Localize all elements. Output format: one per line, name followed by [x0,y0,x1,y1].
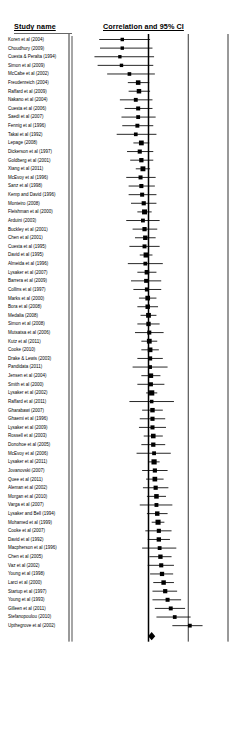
effect-size-marker [147,339,152,344]
effect-size-marker [151,459,156,464]
effect-size-marker [166,598,170,602]
forest-row [129,400,174,404]
effect-size-marker [145,296,150,301]
forest-row [120,98,153,102]
effect-size-marker [142,209,147,214]
forest-row [139,296,156,301]
effect-size-marker [144,279,148,283]
effect-size-marker [136,115,140,119]
forest-row [128,262,163,266]
effect-size-marker [145,287,149,291]
effect-size-marker [136,80,141,85]
forest-row [153,580,174,584]
effect-size-marker [139,158,143,162]
forest-row [140,252,153,257]
effect-size-marker [158,555,162,559]
effect-size-marker [137,89,141,93]
effect-size-marker [146,322,150,326]
forest-row [141,339,157,344]
forest-row [142,408,163,412]
forest-row [131,201,156,205]
forest-row [129,193,157,197]
effect-size-marker [157,537,161,541]
effect-size-marker [142,227,146,231]
forest-row [137,382,164,386]
effect-size-marker [150,400,154,404]
effect-size-marker [145,270,150,275]
effect-size-marker [149,390,154,395]
effect-size-marker [161,580,165,584]
effect-size-marker [148,347,153,352]
forest-row [142,546,176,550]
forest-row [126,175,155,179]
forest-row [143,486,168,490]
forest-row [94,55,154,58]
forest-row [137,209,151,214]
effect-size-marker [146,313,151,318]
effect-size-marker [143,262,147,266]
forest-row [141,373,160,378]
forest-row [128,80,149,85]
forest-row [133,287,161,291]
forest-row [152,589,177,593]
effect-size-marker [135,124,139,128]
forest-row [149,555,171,559]
forest-row [133,227,158,231]
effect-size-marker [153,468,157,472]
forest-row [129,89,150,93]
forest-row [137,322,159,326]
effect-size-marker [143,244,147,248]
forest-row [145,529,171,533]
effect-size-marker [153,477,158,482]
effect-size-marker [141,219,145,223]
effect-size-marker [144,252,149,257]
effect-size-marker [128,72,132,76]
effect-size-marker [136,106,140,110]
forest-row [121,115,155,119]
forest-row [137,270,156,275]
effect-size-marker [140,166,145,171]
effect-size-marker [148,356,152,360]
effect-size-marker [140,193,144,197]
effect-size-marker [154,494,159,499]
forest-row [100,46,152,49]
effect-size-marker [147,331,151,335]
forest-row [140,503,173,507]
forest-row [127,150,153,154]
forest-row [137,451,171,455]
effect-size-marker [139,141,144,146]
effect-size-marker [154,486,158,490]
effect-size-marker [150,417,154,421]
forest-row [142,468,167,472]
forest-row [137,356,162,360]
forest-row [141,313,157,318]
effect-size-marker [139,175,143,179]
forest-row [98,64,154,67]
forest-row [130,158,153,162]
forest-row [147,511,168,515]
effect-size-marker [163,589,167,593]
effect-size-marker [149,373,154,378]
forest-row [131,279,161,283]
forest-row [144,434,163,439]
forest-row [139,425,166,429]
effect-size-marker [155,503,159,507]
forest-plot [0,0,248,745]
effect-size-marker [156,520,161,525]
forest-row [129,184,155,188]
forest-row [152,520,165,525]
forest-row [148,537,170,541]
effect-size-marker [150,408,154,412]
effect-size-marker [121,38,124,41]
effect-size-marker [142,201,146,205]
forest-row [129,244,159,248]
forest-row [107,72,155,76]
forest-row [126,219,159,223]
effect-size-marker [121,46,124,49]
forest-row [135,331,164,335]
forest-row [141,347,158,352]
forest-row [156,615,190,619]
forest-row [140,417,165,421]
effect-size-marker [138,150,142,154]
effect-size-marker [188,624,192,628]
